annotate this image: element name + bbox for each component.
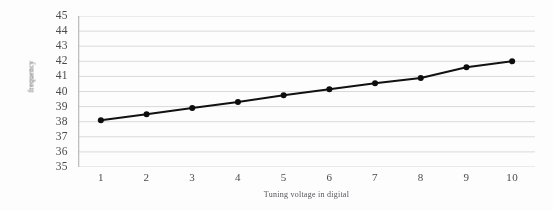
x-axis-title: Tuning voltage in digital	[78, 190, 535, 199]
x-axis-tick-label: 4	[223, 171, 253, 183]
x-axis-tick-label: 7	[360, 171, 390, 183]
plot-area	[78, 16, 535, 167]
data-point-marker	[372, 80, 378, 86]
x-axis-tick-label: 8	[406, 171, 436, 183]
y-axis-tick-label: 38	[34, 116, 68, 128]
y-axis-tick-label: 36	[34, 146, 68, 158]
data-point-marker	[98, 117, 104, 123]
y-axis-tick-label: 45	[34, 10, 68, 22]
y-axis-tick-label: 41	[34, 71, 68, 83]
y-axis-tick-label: 39	[34, 101, 68, 113]
y-axis-tick-label: 42	[34, 56, 68, 68]
data-point-marker	[235, 99, 241, 105]
line-chart-figure: frequency 4544434241403938373635 1234567…	[0, 0, 553, 211]
data-point-marker	[281, 92, 287, 98]
x-axis-tick-label: 9	[451, 171, 481, 183]
data-point-marker	[189, 105, 195, 111]
plot-svg	[78, 16, 535, 167]
x-axis-tick-labels: 12345678910	[78, 171, 535, 187]
y-axis-tick-label: 44	[34, 25, 68, 37]
y-axis-tick-label: 35	[34, 161, 68, 173]
y-axis-tick-label: 37	[34, 131, 68, 143]
x-axis-tick-label: 5	[269, 171, 299, 183]
x-axis-tick-label: 3	[177, 171, 207, 183]
data-point-marker	[418, 75, 424, 81]
x-axis-tick-label: 1	[86, 171, 116, 183]
x-axis-tick-label: 6	[314, 171, 344, 183]
data-series-line	[101, 61, 512, 120]
data-point-markers	[98, 58, 515, 123]
data-point-marker	[509, 58, 515, 64]
y-axis-tick-label: 43	[34, 40, 68, 52]
y-axis-tick-label: 40	[34, 86, 68, 98]
data-point-marker	[463, 64, 469, 70]
x-axis-tick-label: 2	[132, 171, 162, 183]
y-axis-tick-labels: 4544434241403938373635	[34, 9, 68, 167]
data-point-marker	[144, 111, 150, 117]
data-point-marker	[326, 86, 332, 92]
x-axis-tick-label: 10	[497, 171, 527, 183]
